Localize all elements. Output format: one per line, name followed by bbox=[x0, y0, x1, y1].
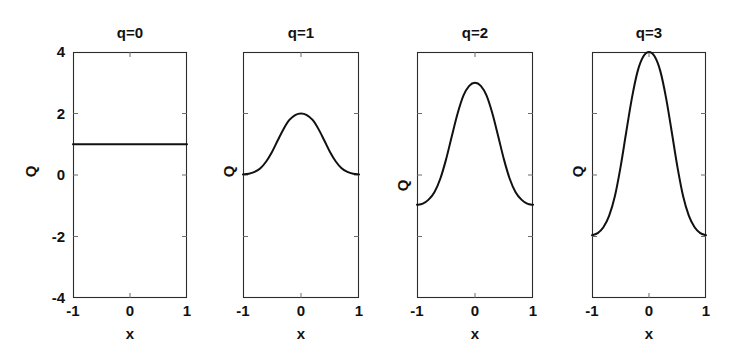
y-axis-label: Q bbox=[220, 162, 237, 182]
axes-frame bbox=[244, 53, 359, 298]
x-tick-label: -1 bbox=[397, 302, 437, 319]
panel-title: q=2 bbox=[417, 24, 533, 41]
x-tick-label: -1 bbox=[223, 302, 263, 319]
y-axis-label: Q bbox=[22, 162, 39, 182]
subplot-panel-2: q=2-101x bbox=[417, 0, 533, 356]
x-axis-label: x bbox=[243, 325, 359, 342]
plot-area bbox=[592, 52, 706, 298]
x-tick-label: -1 bbox=[572, 302, 612, 319]
data-curve bbox=[417, 83, 533, 205]
x-tick-label: 0 bbox=[629, 302, 669, 319]
y-tick-label: 2 bbox=[25, 105, 65, 122]
data-curve bbox=[592, 52, 706, 235]
x-axis-label: x bbox=[592, 325, 706, 342]
subplot-panel-0: q=0-101-4-2024x bbox=[73, 0, 187, 356]
panel-title: q=1 bbox=[243, 24, 359, 41]
axes-frame bbox=[74, 53, 187, 298]
x-tick-label: 1 bbox=[686, 302, 726, 319]
subplot-panel-3: q=3-101x bbox=[592, 0, 706, 356]
x-axis-label: x bbox=[417, 325, 533, 342]
plot-area bbox=[417, 52, 533, 298]
y-tick-label: 4 bbox=[25, 43, 65, 60]
x-tick-label: 1 bbox=[513, 302, 553, 319]
axes-frame bbox=[593, 53, 706, 298]
y-axis-label: Q bbox=[569, 162, 586, 182]
y-tick-label: -2 bbox=[25, 228, 65, 245]
panel-title: q=0 bbox=[73, 24, 187, 41]
x-tick-label: 1 bbox=[167, 302, 207, 319]
x-tick-label: 1 bbox=[339, 302, 379, 319]
x-tick-label: 0 bbox=[281, 302, 321, 319]
x-axis-label: x bbox=[73, 325, 187, 342]
plot-area bbox=[243, 52, 359, 298]
data-curve bbox=[243, 114, 359, 175]
axes-frame bbox=[418, 53, 533, 298]
x-tick-label: 0 bbox=[110, 302, 150, 319]
y-axis-label: Q bbox=[394, 176, 411, 196]
subplot-panel-1: q=1-101x bbox=[243, 0, 359, 356]
plot-area bbox=[73, 52, 187, 298]
panel-title: q=3 bbox=[592, 24, 706, 41]
y-tick-label: -4 bbox=[25, 289, 65, 306]
x-tick-label: 0 bbox=[455, 302, 495, 319]
figure-canvas: q=0-101-4-2024xQq=1-101xQq=2-101xQq=3-10… bbox=[0, 0, 731, 356]
